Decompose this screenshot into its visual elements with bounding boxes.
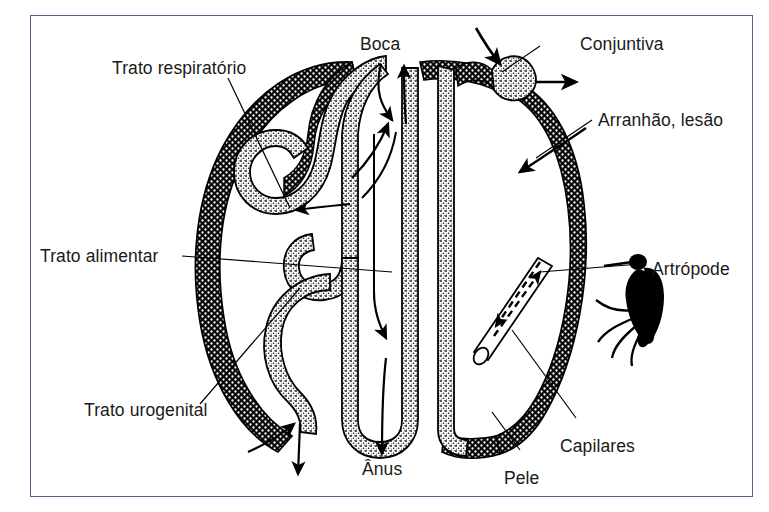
anatomical-diagram: Trato respiratório Trato alimentar Trato…	[0, 0, 769, 512]
arthropod-leg-2	[598, 318, 634, 342]
arrow-conjunctiva-in	[476, 28, 500, 64]
skin-conjunctiva-junction	[456, 62, 494, 88]
label-conjuntiva: Conjuntiva	[580, 34, 664, 54]
right-body-lining	[438, 66, 468, 456]
skin-layer	[195, 61, 586, 458]
label-trato-urogenital: Trato urogenital	[84, 400, 208, 420]
label-anus: Ânus	[362, 459, 402, 479]
label-capilares: Capilares	[560, 436, 635, 456]
label-trato-respiratorio: Trato respiratório	[112, 58, 246, 78]
figure-root: Trato respiratório Trato alimentar Trato…	[0, 0, 769, 512]
label-arranhao-lesao: Arranhão, lesão	[598, 110, 723, 130]
mucosa-layer	[234, 56, 536, 458]
capillary-structure	[471, 258, 552, 367]
label-artropode: Artrópode	[652, 259, 730, 279]
arrow-gut-transit	[374, 292, 386, 338]
arthropod-head	[629, 254, 647, 270]
label-boca: Boca	[360, 34, 400, 54]
arrow-urogenital-out	[298, 424, 300, 474]
arthropod-leg-4	[631, 334, 640, 366]
label-trato-alimentar: Trato alimentar	[40, 246, 159, 266]
leader-artropode	[540, 264, 640, 272]
arrow-anus-out	[382, 358, 386, 454]
label-pele: Pele	[504, 468, 539, 488]
